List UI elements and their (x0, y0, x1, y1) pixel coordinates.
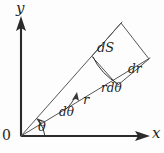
figure-canvas (0, 0, 164, 153)
radius-label: r (83, 93, 89, 106)
arc-arrow-icon (72, 92, 79, 101)
origin-label: 0 (2, 128, 11, 142)
vertical-axis (16, 16, 26, 136)
y-axis-label: y (16, 1, 24, 16)
x-axis-label: x (152, 126, 160, 141)
angle-increment-label: dθ (59, 106, 74, 118)
arc-length-label: rdθ (101, 82, 122, 94)
angle-label: θ (38, 120, 46, 133)
area-element-label: dS (97, 41, 114, 54)
radial-width-label: dr (128, 63, 141, 75)
polar-area-element-figure: y x 0 dS dr rdθ r dθ θ (0, 0, 164, 153)
